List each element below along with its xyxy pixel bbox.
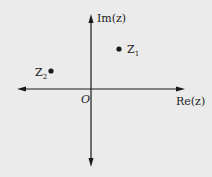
arrow-right-icon	[176, 87, 185, 92]
arrow-left-icon	[17, 87, 26, 92]
argand-diagram: Im(z) Re(z) O Z1 Z2	[0, 0, 212, 177]
re-axis-label: Re(z)	[176, 95, 205, 108]
im-axis-label: Im(z)	[97, 12, 126, 25]
arrow-up-icon	[89, 14, 94, 23]
point-z2-label: Z2	[35, 66, 47, 81]
point-z1	[116, 46, 121, 51]
origin-label: O	[81, 93, 90, 106]
arrow-down-icon	[89, 158, 94, 167]
point-z2	[48, 68, 53, 73]
horizontal-axis	[17, 87, 185, 92]
point-z1-label: Z1	[127, 43, 139, 58]
vertical-axis	[89, 14, 94, 167]
